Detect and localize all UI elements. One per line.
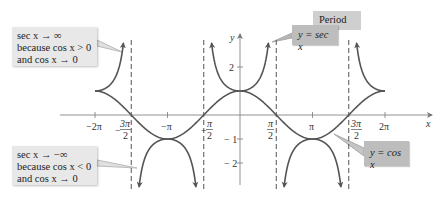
sec-branch-negative-right <box>284 139 341 187</box>
tick-label-pi-2: π 2 <box>267 118 274 141</box>
svg-text:2: 2 <box>207 130 212 141</box>
svg-text:π: π <box>207 118 213 129</box>
tick-label-pi: π <box>309 121 314 132</box>
tick-label-y-2: 2 <box>229 62 234 73</box>
y-axis-label: y <box>229 32 235 43</box>
callout-sec-negative-infinity: sec x → −∞ because cos x < 0 and cos x →… <box>12 146 97 185</box>
svg-text:2: 2 <box>354 130 359 141</box>
callout-line: sec x → −∞ <box>17 149 92 161</box>
callout-leaders <box>97 33 364 168</box>
callout-line: and cos x → 0 <box>17 173 92 185</box>
callout-line: sec x → ∞ <box>17 30 92 42</box>
svg-text:π: π <box>268 118 274 129</box>
callout-line: because cos x > 0 <box>17 42 92 54</box>
callout-sec-positive-infinity: sec x → ∞ because cos x > 0 and cos x → … <box>12 27 97 66</box>
svg-text:2: 2 <box>123 130 128 141</box>
tick-label-3pi-2: 3π 2 <box>350 118 362 141</box>
callout-line: and cos x → 0 <box>17 54 92 66</box>
tick-label-y-neg-1: − 1 <box>224 134 237 145</box>
callout-cos-label: y = cos x <box>364 141 409 166</box>
svg-text:3π: 3π <box>119 118 131 129</box>
svg-text:3π: 3π <box>350 118 362 129</box>
sec-branch-right-edge <box>357 43 385 91</box>
svg-text:2: 2 <box>268 130 273 141</box>
tick-label-neg-pi: −π <box>161 121 172 132</box>
tick-label-neg-3pi-2: − 3π 2 <box>115 118 131 141</box>
tick-label-y-neg-2: − 2 <box>224 158 237 169</box>
callout-line: because cos x < 0 <box>17 161 92 173</box>
tick-label-2pi: 2π <box>379 121 389 132</box>
y-tick-labels: 2 − 1 − 2 <box>224 62 237 169</box>
tick-label-neg-pi-2: − π 2 <box>201 118 213 141</box>
x-axis-label: x <box>425 118 431 129</box>
callout-sec-label: y = sec x <box>292 25 338 45</box>
tick-label-neg-2pi: −2π <box>86 121 102 132</box>
sec-branch-negative-left <box>139 139 196 187</box>
